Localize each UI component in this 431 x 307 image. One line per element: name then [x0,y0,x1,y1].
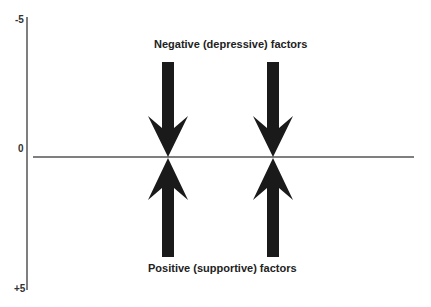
down-arrow-icon [253,62,293,157]
up-arrow-icon [148,158,188,257]
axis-tick-minus5: -5 [15,14,24,25]
positive-factors-label: Positive (supportive) factors [148,262,297,274]
axis-tick-zero: 0 [18,143,24,154]
negative-factors-label: Negative (depressive) factors [154,38,307,50]
down-arrow-icon [148,62,188,157]
up-arrow-icon [253,158,293,257]
axis-tick-plus5: +5 [14,283,25,294]
